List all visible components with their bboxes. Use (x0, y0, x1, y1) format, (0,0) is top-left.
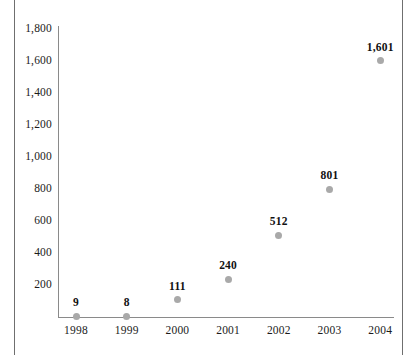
data-point-marker (377, 57, 384, 64)
data-point-marker (123, 313, 130, 320)
y-axis-tick-label: 400 (8, 246, 52, 258)
chart-figure: 2004006008001,0001,2001,4001,6001,800 19… (0, 0, 420, 355)
x-axis-tick-label: 1999 (99, 324, 155, 336)
y-axis-tick-label: 1,800 (8, 22, 52, 34)
data-point-label: 8 (92, 296, 162, 308)
y-axis-tick-label: 1,400 (8, 86, 52, 98)
y-axis-tick-label: 200 (8, 278, 52, 290)
y-axis-line (58, 26, 59, 318)
data-point-marker (174, 296, 181, 303)
data-point-label: 111 (142, 280, 212, 292)
data-point-marker (225, 276, 232, 283)
x-axis-line (58, 317, 394, 318)
x-axis-tick-label: 2001 (200, 324, 256, 336)
x-axis-tick-label: 2003 (302, 324, 358, 336)
y-axis-tick-label: 1,000 (8, 150, 52, 162)
x-axis-tick-label: 1998 (48, 324, 104, 336)
x-axis-tick-label: 2004 (352, 324, 408, 336)
data-point-marker (275, 232, 282, 239)
x-axis-tick-label: 2000 (149, 324, 205, 336)
data-point-label: 801 (295, 169, 365, 181)
data-point-label: 240 (193, 259, 263, 271)
x-axis-tick-label: 2002 (251, 324, 307, 336)
y-axis-tick-label: 600 (8, 214, 52, 226)
data-point-marker (326, 186, 333, 193)
data-point-label: 512 (244, 215, 314, 227)
data-point-label: 1,601 (345, 41, 415, 53)
data-point-marker (73, 313, 80, 320)
y-axis-tick-label: 1,200 (8, 118, 52, 130)
y-axis-tick-label: 1,600 (8, 54, 52, 66)
page-rule-right (402, 0, 403, 355)
y-axis-tick-label: 800 (8, 182, 52, 194)
